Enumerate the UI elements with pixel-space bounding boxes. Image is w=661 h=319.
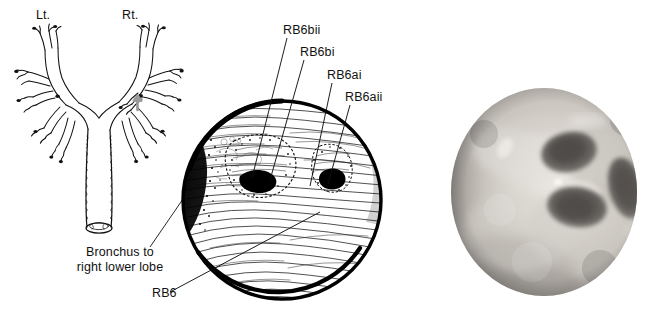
label-rb6bi: RB6bi <box>300 45 335 59</box>
photo-interior <box>394 80 661 319</box>
bronchoscopy-photo-panel <box>440 0 661 319</box>
label-rb6bii: RB6bii <box>283 23 320 37</box>
bronchial-tree-panel: Lt. Rt. Bronchus to right lower lobe RB6 <box>0 0 185 319</box>
bronchus-label-line1: Bronchus to <box>56 245 184 260</box>
rb6-arrow-marker <box>134 96 141 110</box>
bronchus-label-line2: right lower lobe <box>56 260 184 275</box>
bronchoscopy-photo-svg <box>440 0 661 319</box>
endoscopic-drawing-svg <box>170 0 400 319</box>
label-right-side: Rt. <box>122 8 138 22</box>
label-rb6aii: RB6aii <box>345 90 382 104</box>
label-rb6ai: RB6ai <box>327 68 362 82</box>
circle-interior <box>152 98 390 304</box>
endoscopic-drawing-panel <box>170 0 400 319</box>
label-left-side: Lt. <box>36 8 50 22</box>
bronchoscopy-figure: Lt. Rt. Bronchus to right lower lobe RB6 <box>0 0 661 319</box>
label-bronchus-to-right-lower-lobe: Bronchus to right lower lobe <box>56 245 184 275</box>
tree-outline <box>14 23 183 233</box>
